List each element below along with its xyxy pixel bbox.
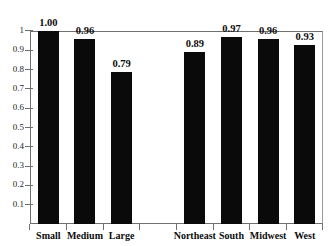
bar-chart: 10.90.80.70.60.50.40.30.20.1 1.00Small0.… [0, 0, 332, 246]
bar-value-label: 0.96 [63, 25, 107, 36]
y-axis-tick [25, 50, 33, 51]
y-axis-tick-label: 0.5 [0, 123, 24, 132]
y-axis-tick [25, 204, 33, 205]
x-axis-label-large: Large [96, 230, 148, 241]
y-axis-tick [25, 69, 33, 70]
y-axis-tick-label: 0.1 [0, 200, 24, 209]
y-axis-tick [25, 30, 33, 31]
bar-value-label: 0.89 [173, 38, 217, 49]
y-axis-tick-label: 0.6 [0, 103, 24, 112]
bar-value-label: 0.79 [100, 58, 144, 69]
y-axis-tick-label: 0.9 [0, 45, 24, 54]
y-axis-tick [25, 88, 33, 89]
bar-large[interactable] [111, 72, 132, 224]
y-axis-tick-label: 0.4 [0, 142, 24, 151]
bar-medium[interactable] [74, 39, 95, 224]
y-axis-tick [25, 166, 33, 167]
bar-west[interactable] [294, 45, 315, 224]
bar-south[interactable] [221, 37, 242, 224]
bar-value-label: 0.93 [283, 31, 327, 42]
bar-northeast[interactable] [184, 52, 205, 224]
y-axis-tick-label: 1 [0, 26, 24, 35]
y-axis-tick [25, 108, 33, 109]
y-axis-tick [25, 127, 33, 128]
y-axis-tick-label: 0.3 [0, 161, 24, 170]
y-axis-tick [25, 185, 33, 186]
y-axis-tick [25, 146, 33, 147]
y-axis-tick-label: 0.7 [0, 84, 24, 93]
bar-midwest[interactable] [258, 39, 279, 224]
bar-small[interactable] [38, 31, 59, 224]
y-axis-tick-label: 0.2 [0, 180, 24, 189]
x-axis-label-west: West [279, 230, 331, 241]
y-axis-tick-label: 0.8 [0, 65, 24, 74]
